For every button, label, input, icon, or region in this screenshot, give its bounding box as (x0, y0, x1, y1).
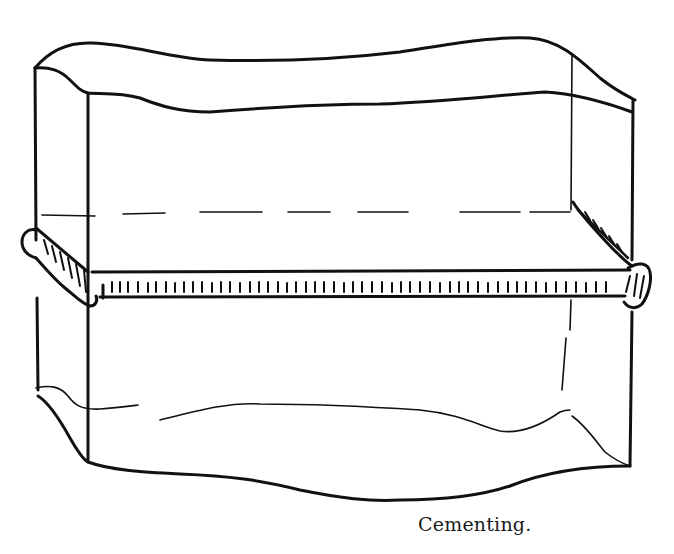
bottom-back-edge (160, 404, 570, 432)
figure-caption: Cementing. (418, 513, 531, 535)
back-right-corner-dash (570, 300, 571, 330)
cementing-illustration: Cementing. (0, 0, 674, 554)
bottom-right-edge (572, 416, 630, 466)
left-back-corner-lower (37, 298, 38, 390)
cement-seam-front (92, 270, 630, 298)
back-right-corner-lower (562, 338, 566, 390)
cement-seam-right (573, 202, 651, 308)
hidden-seam-dash (42, 215, 95, 216)
back-right-corner (571, 55, 572, 210)
bottom-front-edge (88, 462, 630, 501)
cement-seam-left (22, 228, 97, 306)
front-right-corner (632, 100, 633, 260)
top-front-edge (35, 68, 632, 112)
left-back-corner (35, 68, 36, 240)
hidden-seam-dash (123, 213, 165, 214)
front-right-corner-lower (630, 312, 632, 466)
tank-drawing (0, 0, 674, 554)
